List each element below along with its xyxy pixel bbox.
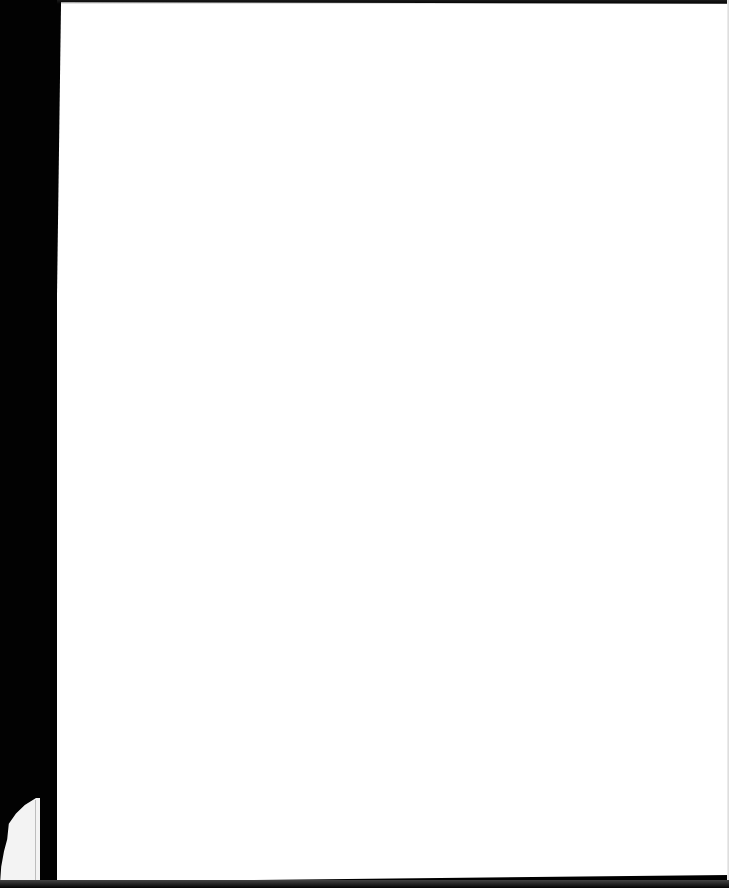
dark-background-strip (0, 0, 60, 888)
blank-paper-page (57, 2, 729, 882)
top-edge-shadow (57, 0, 729, 4)
bottom-dark-edge (0, 880, 729, 888)
scan-scene (0, 0, 729, 888)
paper-edge-line (35, 800, 36, 884)
